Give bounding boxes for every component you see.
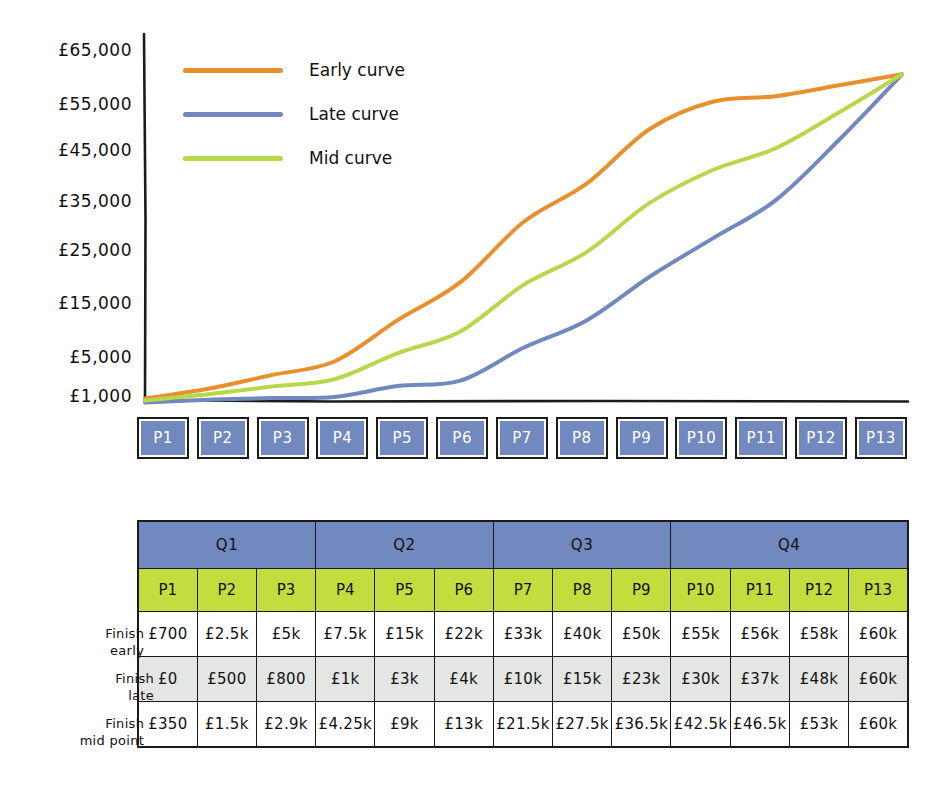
- table-cell: £27.5k: [553, 702, 612, 748]
- table-cell: £33k: [493, 612, 552, 657]
- legend-item: Late curve: [183, 92, 483, 136]
- table-cell: £58k: [789, 612, 848, 657]
- table-cell-value: £350: [148, 715, 187, 733]
- legend-item-label: Mid curve: [309, 148, 392, 168]
- y-axis-label-group: £65,000£55,000£45,000£35,000£25,000£15,0…: [0, 0, 132, 420]
- table-cell: £37k: [730, 657, 789, 702]
- period-header-row: P1P2P3P4P5P6P7P8P9P10P11P12P13: [138, 569, 908, 612]
- chart-area: £65,000£55,000£45,000£35,000£25,000£15,0…: [0, 0, 952, 470]
- legend-color-swatch: [183, 112, 283, 117]
- table-cell: £1k: [316, 657, 375, 702]
- table-cell-value: £0: [158, 670, 178, 688]
- table-row: Finishlate£0£500£800£1k£3k£4k£10k£15k£23…: [138, 657, 908, 702]
- schedule-table: Q1Q2Q3Q4 P1P2P3P4P5P6P7P8P9P10P11P12P13 …: [137, 520, 909, 748]
- table-cell: Finishmid point£350: [138, 702, 197, 748]
- table-period-header-p2: P2: [197, 569, 256, 612]
- table-cell: £22k: [434, 612, 493, 657]
- row-label-line1: Finish: [56, 715, 144, 732]
- period-box-p3[interactable]: P3: [257, 417, 309, 459]
- table-cell: £56k: [730, 612, 789, 657]
- period-box-p7[interactable]: P7: [496, 417, 548, 459]
- period-box-p2[interactable]: P2: [197, 417, 249, 459]
- period-box-p1[interactable]: P1: [137, 417, 189, 459]
- period-box-p6[interactable]: P6: [436, 417, 488, 459]
- table-row: Finishmid point£350£1.5k£2.9k£4.25k£9k£1…: [138, 702, 908, 748]
- period-box-row: P1P2P3P4P5P6P7P8P9P10P11P12P13: [137, 417, 907, 459]
- table-cell: £2.9k: [256, 702, 315, 748]
- y-axis-tick-label: £5,000: [12, 347, 132, 367]
- table-cell: £30k: [671, 657, 730, 702]
- quarter-header-row: Q1Q2Q3Q4: [138, 521, 908, 569]
- table-cell: £4k: [434, 657, 493, 702]
- table-cell: £2.5k: [197, 612, 256, 657]
- table-cell: £800: [256, 657, 315, 702]
- table-period-header-p5: P5: [375, 569, 434, 612]
- table-cell: £15k: [375, 612, 434, 657]
- quarter-header-q4: Q4: [671, 521, 908, 569]
- y-axis-tick-label: £1,000: [12, 386, 132, 406]
- table-cell: Finishlate£0: [138, 657, 197, 702]
- table-period-header-p8: P8: [553, 569, 612, 612]
- table-period-header-p9: P9: [612, 569, 671, 612]
- table-row: Finishearly£700£2.5k£5k£7.5k£15k£22k£33k…: [138, 612, 908, 657]
- legend-color-swatch: [183, 68, 283, 73]
- period-box-p12[interactable]: P12: [795, 417, 847, 459]
- period-box-p9[interactable]: P9: [616, 417, 668, 459]
- table-cell: £36.5k: [612, 702, 671, 748]
- table-cell: £46.5k: [730, 702, 789, 748]
- table-period-header-p3: P3: [256, 569, 315, 612]
- table-period-header-p11: P11: [730, 569, 789, 612]
- table-period-header-p12: P12: [789, 569, 848, 612]
- schedule-table-wrapper: Q1Q2Q3Q4 P1P2P3P4P5P6P7P8P9P10P11P12P13 …: [137, 520, 909, 748]
- table-period-header-p6: P6: [434, 569, 493, 612]
- table-body: Finishearly£700£2.5k£5k£7.5k£15k£22k£33k…: [138, 612, 908, 748]
- y-axis-tick-label: £55,000: [12, 94, 132, 114]
- table-cell: £500: [197, 657, 256, 702]
- y-axis-tick-label: £25,000: [12, 240, 132, 260]
- table-cell-value: £700: [148, 625, 187, 643]
- y-axis-tick-label: £15,000: [12, 293, 132, 313]
- table-cell: £48k: [789, 657, 848, 702]
- table-period-header-p10: P10: [671, 569, 730, 612]
- table-cell: £9k: [375, 702, 434, 748]
- table-cell: £23k: [612, 657, 671, 702]
- row-label-line1: Finish: [66, 670, 154, 687]
- table-cell: £7.5k: [316, 612, 375, 657]
- row-label-line2: mid point: [56, 732, 144, 749]
- y-axis-tick-label: £35,000: [12, 191, 132, 211]
- table-cell: £55k: [671, 612, 730, 657]
- period-box-p8[interactable]: P8: [556, 417, 608, 459]
- table-cell: £42.5k: [671, 702, 730, 748]
- table-cell: £1.5k: [197, 702, 256, 748]
- quarter-header-q2: Q2: [316, 521, 494, 569]
- table-cell: £53k: [789, 702, 848, 748]
- chart-legend: Early curveLate curveMid curve: [183, 48, 483, 180]
- table-cell: £5k: [256, 612, 315, 657]
- period-box-p5[interactable]: P5: [376, 417, 428, 459]
- table-cell: £60k: [849, 612, 908, 657]
- legend-item: Early curve: [183, 48, 483, 92]
- row-label-line2: late: [66, 687, 154, 704]
- legend-item: Mid curve: [183, 136, 483, 180]
- period-box-p13[interactable]: P13: [855, 417, 907, 459]
- table-row-label: Finishmid point: [56, 715, 144, 749]
- table-cell: £4.25k: [316, 702, 375, 748]
- table-cell: £50k: [612, 612, 671, 657]
- table-cell: Finishearly£700: [138, 612, 197, 657]
- table-period-header-p7: P7: [493, 569, 552, 612]
- table-cell: £10k: [493, 657, 552, 702]
- row-label-line1: Finish: [56, 625, 144, 642]
- period-box-p10[interactable]: P10: [675, 417, 727, 459]
- table-row-label: Finishearly: [56, 625, 144, 659]
- table-period-header-p1: P1: [138, 569, 197, 612]
- period-box-p11[interactable]: P11: [735, 417, 787, 459]
- legend-color-swatch: [183, 156, 283, 161]
- period-box-p4[interactable]: P4: [316, 417, 368, 459]
- legend-item-label: Early curve: [309, 60, 405, 80]
- quarter-header-q1: Q1: [138, 521, 316, 569]
- table-period-header-p4: P4: [316, 569, 375, 612]
- table-cell: £21.5k: [493, 702, 552, 748]
- row-label-line2: early: [56, 642, 144, 659]
- table-cell: £15k: [553, 657, 612, 702]
- quarter-header-q3: Q3: [493, 521, 671, 569]
